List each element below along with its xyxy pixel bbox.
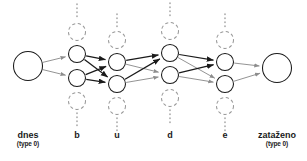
edge: [234, 63, 259, 66]
ghost-node-b: [69, 93, 86, 110]
node-end-0[interactable]: [263, 54, 292, 83]
edge: [86, 56, 105, 60]
edge: [178, 58, 215, 79]
node-start-0[interactable]: [14, 52, 43, 81]
edge: [84, 60, 107, 77]
ghost-node-u: [109, 32, 126, 49]
edge: [126, 64, 159, 72]
node-e-0[interactable]: [217, 54, 234, 71]
edge: [43, 57, 66, 63]
ghost-nodes-layer: [69, 3, 234, 133]
edge: [179, 65, 214, 73]
node-e-1[interactable]: [217, 76, 234, 93]
node-u-0[interactable]: [109, 54, 126, 71]
nodes-layer: [14, 45, 292, 93]
ghost-node-d: [162, 23, 179, 40]
ghost-node-e: [217, 32, 234, 49]
ghost-node-u: [109, 98, 126, 115]
edge: [126, 77, 158, 82]
node-d-1[interactable]: [162, 67, 179, 84]
node-b-0[interactable]: [69, 46, 86, 63]
ghost-node-b: [69, 24, 86, 41]
column-label-end: zataženo(type 0): [217, 130, 307, 147]
node-u-1[interactable]: [109, 76, 126, 93]
edge: [125, 59, 160, 79]
ghost-node-d: [162, 90, 179, 107]
node-d-0[interactable]: [162, 45, 179, 62]
column-sublabel-text-end: (type 0): [217, 140, 307, 147]
edge: [86, 79, 105, 82]
edge: [234, 73, 260, 81]
edge: [126, 55, 158, 60]
diagram-canvas: dnes(type 0)budezataženo(type 0): [0, 0, 307, 161]
node-b-1[interactable]: [69, 70, 86, 87]
edge: [179, 77, 213, 83]
ghost-node-e: [217, 98, 234, 115]
column-sublabel-text-start: (type 0): [0, 140, 88, 147]
edge: [179, 55, 213, 61]
edge: [43, 70, 66, 76]
column-label-text-end: zataženo: [258, 130, 296, 140]
